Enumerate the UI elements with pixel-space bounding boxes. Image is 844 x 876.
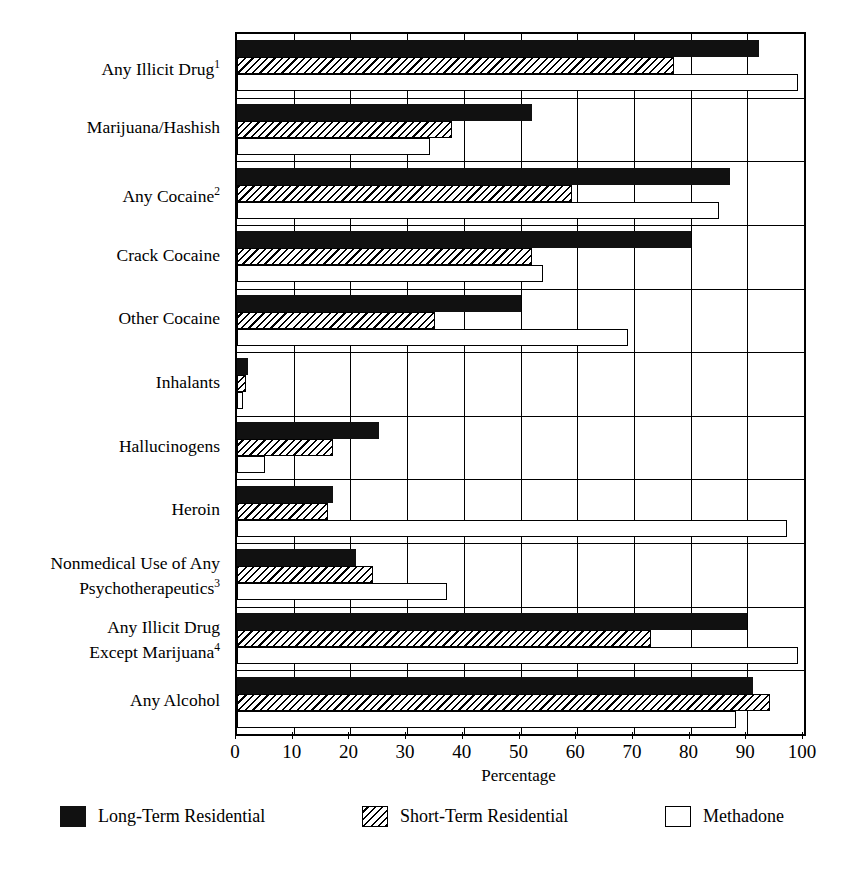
bar: [237, 566, 373, 583]
bar: [237, 520, 787, 537]
x-tick-label: 60: [566, 741, 585, 763]
bar: [237, 630, 651, 647]
bar: [237, 549, 356, 566]
bar: [237, 583, 447, 600]
bar: [237, 265, 543, 282]
bar: [237, 456, 265, 473]
bar-group: [237, 352, 804, 416]
category-label: Any Alcohol: [130, 690, 220, 710]
x-tick: [462, 732, 463, 739]
bar: [237, 439, 333, 456]
bar-group: [237, 98, 804, 162]
legend-swatch-icon: [60, 806, 86, 827]
legend-item: Long-Term Residential: [60, 806, 265, 827]
category-label: Nonmedical Use of AnyPsychotherapeutics3: [50, 553, 220, 598]
bar: [237, 312, 435, 329]
x-axis: 0102030405060708090100: [235, 732, 802, 733]
bar-group: [237, 543, 804, 607]
bar: [237, 486, 333, 503]
legend-label: Short-Term Residential: [400, 806, 568, 827]
x-tick-label: 40: [452, 741, 471, 763]
bar-group: [237, 479, 804, 543]
category-label: Any Illicit Drug1: [101, 54, 220, 79]
bar: [237, 711, 736, 728]
category-label: Inhalants: [156, 372, 220, 392]
bar: [237, 138, 430, 155]
x-tick-label: 80: [679, 741, 698, 763]
legend: Long-Term ResidentialShort-Term Resident…: [60, 806, 784, 827]
x-tick-label: 50: [509, 741, 528, 763]
x-tick: [745, 732, 746, 739]
footnote-marker: 1: [214, 58, 220, 70]
x-tick: [292, 732, 293, 739]
x-tick: [689, 732, 690, 739]
legend-item: Methadone: [665, 806, 784, 827]
bar-group: [237, 161, 804, 225]
footnote-marker: 4: [214, 641, 220, 653]
legend-swatch-icon: [362, 806, 388, 827]
legend-label: Methadone: [703, 806, 784, 827]
bar-group: [237, 225, 804, 289]
bar: [237, 121, 452, 138]
x-tick: [575, 732, 576, 739]
bar-group: [237, 416, 804, 480]
category-label: Hallucinogens: [119, 436, 220, 456]
legend-label: Long-Term Residential: [98, 806, 265, 827]
plot-area: [235, 32, 806, 736]
bar: [237, 74, 798, 91]
footnote-marker: 2: [214, 185, 220, 197]
bar: [237, 613, 747, 630]
category-axis-labels: Any Illicit Drug1Marijuana/HashishAny Co…: [0, 32, 228, 732]
x-tick: [802, 732, 803, 739]
category-label: Heroin: [171, 499, 220, 519]
bar: [237, 231, 691, 248]
x-tick: [348, 732, 349, 739]
bar: [237, 329, 628, 346]
bar: [237, 677, 753, 694]
bar: [237, 295, 521, 312]
bar: [237, 202, 719, 219]
x-tick-label: 100: [788, 741, 817, 763]
bar-group: [237, 607, 804, 671]
x-tick-label: 0: [230, 741, 240, 763]
category-label: Any Illicit DrugExcept Marijuana4: [89, 617, 220, 662]
footnote-marker: 3: [214, 577, 220, 589]
x-tick-label: 70: [622, 741, 641, 763]
bar: [237, 358, 248, 375]
category-label: Marijuana/Hashish: [87, 117, 220, 137]
category-label: Any Cocaine2: [122, 181, 220, 206]
bar-group: [237, 670, 804, 734]
x-tick: [405, 732, 406, 739]
bar: [237, 185, 572, 202]
bar: [237, 57, 674, 74]
bar-group: [237, 289, 804, 353]
x-axis-title: Percentage: [235, 766, 802, 786]
bar: [237, 392, 243, 409]
x-tick: [235, 732, 236, 739]
legend-item: Short-Term Residential: [362, 806, 568, 827]
bar: [237, 40, 759, 57]
bar: [237, 375, 246, 392]
bar-group: [237, 34, 804, 98]
x-tick: [632, 732, 633, 739]
bar: [237, 248, 532, 265]
x-tick-label: 30: [396, 741, 415, 763]
legend-swatch-icon: [665, 806, 691, 827]
bar: [237, 503, 328, 520]
bar: [237, 168, 730, 185]
bar: [237, 647, 798, 664]
x-tick-label: 10: [282, 741, 301, 763]
bar: [237, 694, 770, 711]
x-tick: [519, 732, 520, 739]
x-tick-label: 20: [339, 741, 358, 763]
category-label: Other Cocaine: [118, 308, 220, 328]
category-label: Crack Cocaine: [117, 245, 221, 265]
bar: [237, 104, 532, 121]
bar-groups: [237, 34, 804, 734]
bar-chart: Any Illicit Drug1Marijuana/HashishAny Co…: [0, 0, 844, 876]
bar: [237, 422, 379, 439]
x-tick-label: 90: [736, 741, 755, 763]
